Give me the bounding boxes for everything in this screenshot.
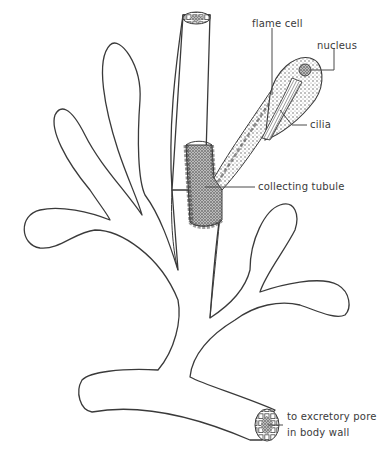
label-flame-cell: flame cell [252,18,303,30]
label-collecting-tubule: collecting tubule [258,181,345,193]
label-excretory-pore-line2: in body wall [287,427,349,439]
collecting-tubule [186,141,222,227]
label-excretory-pore-line1: to excretory pore [287,411,377,423]
label-cilia: cilia [310,119,331,131]
label-nucleus: nucleus [317,40,357,52]
flame-cell-diagram: flame cell nucleus cilia collecting tubu… [0,0,386,455]
diagram-drawing [0,0,386,455]
